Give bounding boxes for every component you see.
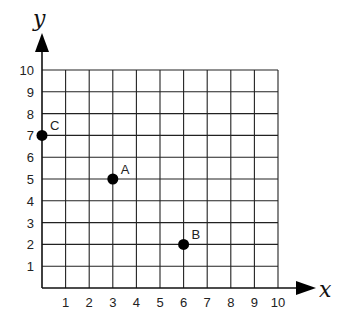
y-tick-label: 4 <box>27 194 34 209</box>
x-tick-label: 8 <box>227 295 234 310</box>
point-marker-icon <box>37 130 48 141</box>
y-tick-label: 10 <box>20 63 34 78</box>
point-c: C <box>37 118 60 141</box>
x-axis-arrow-icon <box>296 281 316 295</box>
point-label: A <box>121 162 130 177</box>
x-tick-label: 7 <box>204 295 211 310</box>
y-tick-label: 3 <box>27 216 34 231</box>
coordinate-grid-chart: y x 12345678910 12345678910 ABC <box>0 0 347 325</box>
y-axis-arrow-icon <box>35 33 49 52</box>
x-tick-label: 5 <box>156 295 163 310</box>
x-tick-label: 2 <box>86 295 93 310</box>
x-tick-label: 9 <box>251 295 258 310</box>
grid-lines <box>42 70 278 288</box>
x-axis-label: x <box>319 277 332 302</box>
y-tick-label: 7 <box>27 128 34 143</box>
data-points: ABC <box>37 118 201 250</box>
y-axis-label: y <box>32 6 46 31</box>
y-tick-label: 2 <box>27 237 34 252</box>
point-label: C <box>50 118 59 133</box>
y-tick-label: 8 <box>27 107 34 122</box>
x-tick-label: 6 <box>180 295 187 310</box>
y-tick-label: 5 <box>27 172 34 187</box>
x-tick-label: 10 <box>271 295 285 310</box>
axes: y x <box>32 6 332 302</box>
y-tick-label: 9 <box>27 85 34 100</box>
point-b: B <box>178 227 200 250</box>
point-marker-icon <box>107 174 118 185</box>
x-tick-label: 4 <box>133 295 140 310</box>
x-tick-label: 3 <box>109 295 116 310</box>
x-tick-labels: 12345678910 <box>62 295 285 310</box>
point-marker-icon <box>178 239 189 250</box>
point-a: A <box>107 162 130 185</box>
y-tick-label: 1 <box>27 259 34 274</box>
y-tick-labels: 12345678910 <box>20 63 34 274</box>
point-label: B <box>192 227 201 242</box>
x-tick-label: 1 <box>62 295 69 310</box>
y-tick-label: 6 <box>27 150 34 165</box>
